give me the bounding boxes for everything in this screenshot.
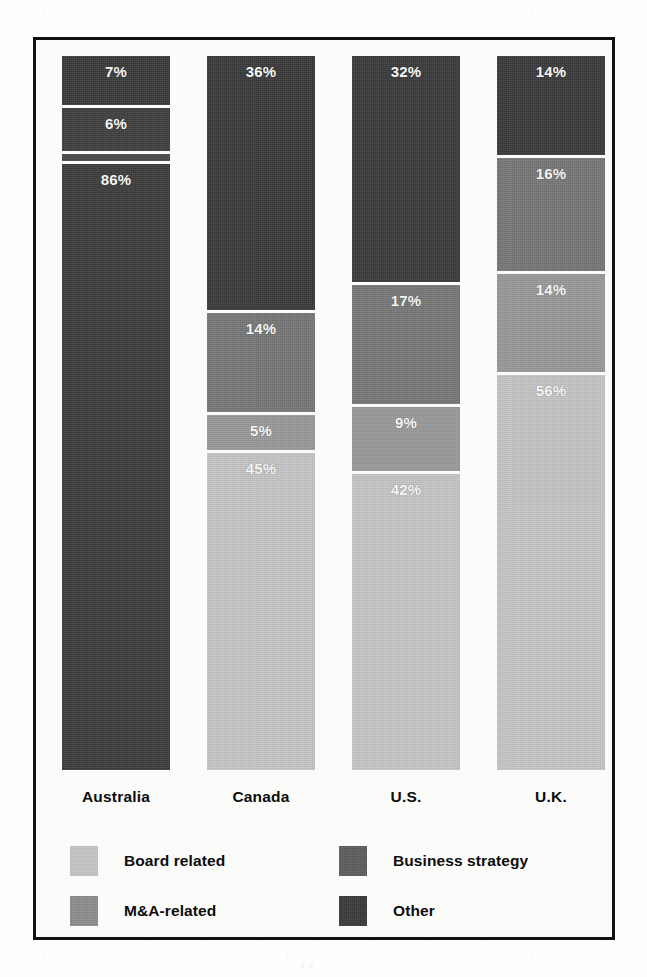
bar-segment-uk-ma-related[interactable]: 14% (497, 274, 605, 376)
bar-segment-uk-board-related[interactable]: 56% (497, 375, 605, 770)
chart-frame: 7% 6% 86% 36% 14% (33, 37, 615, 940)
legend-label-other: Other (393, 902, 435, 920)
legend-item-other[interactable]: Other (339, 896, 435, 926)
legend-item-board-related[interactable]: Board related (70, 846, 225, 876)
bar-segment-canada-board-related[interactable]: 45% (207, 453, 315, 770)
category-label-australia: Australia (62, 788, 170, 806)
ghost-text-bottom: a a (300, 958, 313, 970)
page-background: ne ad a a 7% 6% 86% (0, 0, 647, 977)
legend-swatch-ma-related-icon (70, 896, 98, 926)
bar-value-label: 7% (105, 63, 127, 80)
bar-column-us[interactable]: 32% 17% 9% 42% (352, 56, 460, 770)
bar-segment-canada-business-strategy[interactable]: 14% (207, 313, 315, 415)
bar-segment-us-board-related[interactable]: 42% (352, 474, 460, 770)
legend-label-business-strategy: Business strategy (393, 852, 528, 870)
bar-value-label: 16% (536, 165, 567, 182)
bar-value-label: 14% (536, 281, 567, 298)
legend-item-ma-related[interactable]: M&A-related (70, 896, 216, 926)
chart-legend: Board related Business strategy M&A-rela… (36, 840, 612, 940)
bar-segment-uk-other[interactable]: 14% (497, 56, 605, 158)
bar-segment-us-ma-related[interactable]: 9% (352, 407, 460, 473)
bar-value-label: 9% (395, 414, 417, 431)
bar-value-label: 6% (105, 115, 127, 132)
legend-swatch-board-related-icon (70, 846, 98, 876)
bar-column-australia[interactable]: 7% 6% 86% (62, 56, 170, 770)
bar-segment-canada-ma-related[interactable]: 5% (207, 415, 315, 453)
bar-segment-uk-business-strategy[interactable]: 16% (497, 158, 605, 274)
bar-value-label: 14% (536, 63, 567, 80)
bar-value-label: 56% (536, 382, 567, 399)
category-label-canada: Canada (207, 788, 315, 806)
bar-column-canada[interactable]: 36% 14% 5% 45% (207, 56, 315, 770)
bar-segment-canada-other[interactable]: 36% (207, 56, 315, 313)
legend-swatch-other-icon (339, 896, 367, 926)
bar-segment-australia-ma-related[interactable] (62, 154, 170, 164)
bar-value-label: 42% (391, 481, 422, 498)
legend-swatch-business-strategy-icon (339, 846, 367, 876)
bar-segment-australia-other[interactable]: 7% (62, 56, 170, 108)
bar-value-label: 17% (391, 292, 422, 309)
category-label-uk: U.K. (497, 788, 605, 806)
plot-area: 7% 6% 86% 36% 14% (36, 40, 612, 774)
bar-segment-australia-business-strategy[interactable]: 6% (62, 108, 170, 153)
bar-segment-us-other[interactable]: 32% (352, 56, 460, 285)
bar-value-label: 14% (246, 320, 277, 337)
bar-value-label: 32% (391, 63, 422, 80)
bar-value-label: 86% (101, 171, 132, 188)
bar-value-label: 45% (246, 460, 277, 477)
bar-value-label: 5% (250, 422, 272, 439)
bar-column-uk[interactable]: 14% 16% 14% 56% (497, 56, 605, 770)
bar-segment-us-business-strategy[interactable]: 17% (352, 285, 460, 408)
legend-label-board-related: Board related (124, 852, 225, 870)
bar-segment-australia-board-related[interactable]: 86% (62, 164, 170, 770)
legend-label-ma-related: M&A-related (124, 902, 216, 920)
category-axis: Australia Canada U.S. U.K. (36, 788, 612, 828)
bar-value-label: 36% (246, 63, 277, 80)
category-label-us: U.S. (352, 788, 460, 806)
legend-item-business-strategy[interactable]: Business strategy (339, 846, 528, 876)
